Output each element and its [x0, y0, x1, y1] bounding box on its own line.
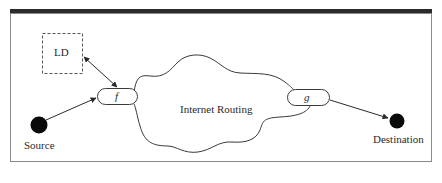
ld-f-double-arrow [84, 57, 117, 87]
source-f-arrow [46, 98, 96, 120]
source-node-dot [31, 117, 48, 134]
figure-frame [11, 14, 432, 162]
figure-caption-clipped [10, 176, 210, 183]
source-label: Source [24, 140, 55, 151]
destination-node-dot [390, 114, 405, 129]
diagram-canvas [0, 0, 442, 183]
g-destination-arrow [330, 100, 388, 118]
internet-routing-label: Internet Routing [180, 104, 252, 115]
destination-label: Destination [373, 134, 424, 145]
ld-label: LD [54, 47, 69, 58]
f-label: f [115, 91, 118, 102]
g-label: g [304, 92, 310, 103]
top-rule [10, 9, 432, 13]
